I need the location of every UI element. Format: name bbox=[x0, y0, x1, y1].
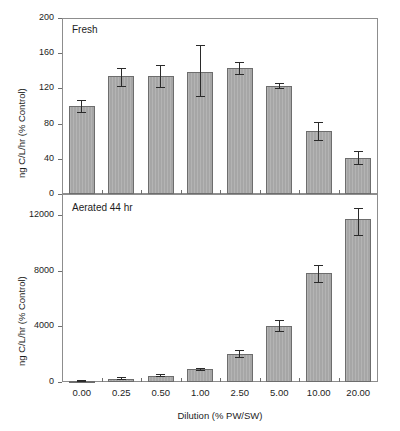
error-bar-cap-upper bbox=[275, 83, 284, 84]
error-bar bbox=[313, 265, 325, 283]
error-bar bbox=[234, 350, 246, 357]
x-tick-mark bbox=[339, 378, 340, 382]
x-tick-label: 10.00 bbox=[299, 388, 339, 398]
error-bar-cap-upper bbox=[354, 151, 363, 152]
bar bbox=[266, 326, 292, 382]
error-bar-cap-upper bbox=[314, 122, 323, 123]
error-bar-cap-lower bbox=[354, 164, 363, 165]
error-bar bbox=[273, 320, 285, 332]
x-axis-label: Dilution (% PW/SW) bbox=[62, 410, 378, 421]
error-bar-cap-upper bbox=[156, 374, 165, 375]
y-tick-mark bbox=[58, 382, 62, 383]
error-bar bbox=[313, 122, 325, 141]
error-bar-cap-lower bbox=[117, 86, 126, 87]
error-bar-cap-lower bbox=[314, 140, 323, 141]
error-bar-cap-lower bbox=[156, 87, 165, 88]
panel-label-aerated: Aerated 44 hr bbox=[72, 202, 133, 213]
error-bar-cap-lower bbox=[156, 376, 165, 377]
x-tick-label: 20.00 bbox=[338, 388, 378, 398]
error-bar bbox=[76, 100, 88, 113]
error-bar-cap-lower bbox=[117, 379, 126, 380]
error-bar bbox=[115, 68, 127, 86]
error-bar-cap-lower bbox=[314, 282, 323, 283]
error-bar-cap-upper bbox=[314, 265, 323, 266]
error-bar-cap-lower bbox=[235, 74, 244, 75]
error-bar bbox=[352, 151, 364, 165]
error-bar-cap-upper bbox=[196, 45, 205, 46]
chart-panel-fresh: Fresh ng C/L/hr (% Control) 040801201602… bbox=[0, 0, 400, 202]
y-tick-mark bbox=[58, 159, 62, 160]
error-bar-cap-upper bbox=[117, 68, 126, 69]
error-bar bbox=[115, 377, 127, 379]
y-tick-mark bbox=[58, 271, 62, 272]
y-tick-label: 0 bbox=[18, 377, 54, 386]
error-bar-cap-lower bbox=[275, 88, 284, 89]
y-tick-label: 200 bbox=[18, 13, 54, 22]
y-axis-label-fresh: ng C/L/hr (% Control) bbox=[16, 88, 27, 178]
error-bar-cap-upper bbox=[354, 208, 363, 209]
error-bar-cap-lower bbox=[196, 96, 205, 97]
error-bar-cap-lower bbox=[275, 331, 284, 332]
x-tick-label: 1.00 bbox=[180, 388, 220, 398]
bar bbox=[227, 68, 253, 194]
error-bar-cap-lower bbox=[196, 370, 205, 371]
y-tick-mark bbox=[58, 124, 62, 125]
error-bar bbox=[273, 83, 285, 89]
error-bar bbox=[76, 380, 88, 381]
y-tick-mark bbox=[58, 53, 62, 54]
y-tick-label: 80 bbox=[18, 119, 54, 128]
bar bbox=[69, 106, 95, 194]
y-tick-mark bbox=[58, 215, 62, 216]
x-tick-mark bbox=[220, 378, 221, 382]
error-bar-cap-lower bbox=[354, 235, 363, 236]
figure-container: Fresh ng C/L/hr (% Control) 040801201602… bbox=[0, 0, 400, 431]
error-bar-cap-upper bbox=[275, 320, 284, 321]
error-bar bbox=[155, 65, 167, 89]
error-bar-stem bbox=[358, 208, 359, 237]
y-tick-label: 4000 bbox=[18, 321, 54, 330]
error-bar bbox=[352, 208, 364, 237]
error-bar-cap-upper bbox=[235, 350, 244, 351]
error-bar bbox=[194, 368, 206, 370]
y-tick-label: 160 bbox=[18, 48, 54, 57]
error-bar-stem bbox=[160, 65, 161, 89]
x-tick-mark bbox=[102, 378, 103, 382]
error-bar-stem bbox=[121, 68, 122, 86]
x-tick-label: 0.00 bbox=[62, 388, 102, 398]
x-tick-mark bbox=[299, 378, 300, 382]
x-tick-mark bbox=[141, 378, 142, 382]
bar bbox=[187, 369, 213, 382]
bar bbox=[266, 86, 292, 194]
x-tick-label: 5.00 bbox=[259, 388, 299, 398]
error-bar-cap-lower bbox=[77, 112, 86, 113]
y-tick-label: 120 bbox=[18, 83, 54, 92]
y-tick-label: 40 bbox=[18, 154, 54, 163]
error-bar-cap-lower bbox=[77, 381, 86, 382]
bar bbox=[148, 76, 174, 194]
x-tick-mark bbox=[260, 378, 261, 382]
bar bbox=[306, 273, 332, 382]
error-bar-cap-upper bbox=[235, 62, 244, 63]
y-tick-mark bbox=[58, 18, 62, 19]
error-bar-stem bbox=[358, 151, 359, 165]
error-bar-stem bbox=[318, 122, 319, 141]
chart-panel-aerated: Aerated 44 hr ng C/L/hr (% Control) 0400… bbox=[0, 194, 400, 431]
error-bar-cap-upper bbox=[77, 100, 86, 101]
y-tick-label: 8000 bbox=[18, 266, 54, 275]
error-bar-stem bbox=[318, 265, 319, 283]
x-tick-label: 2.50 bbox=[220, 388, 260, 398]
x-tick-mark bbox=[181, 378, 182, 382]
x-tick-label: 0.25 bbox=[101, 388, 141, 398]
y-tick-mark bbox=[58, 88, 62, 89]
bar bbox=[227, 354, 253, 382]
error-bar bbox=[194, 45, 206, 97]
y-tick-label: 12000 bbox=[18, 210, 54, 219]
y-tick-mark bbox=[58, 326, 62, 327]
error-bar-cap-upper bbox=[156, 65, 165, 66]
error-bar-stem bbox=[200, 45, 201, 97]
bar bbox=[345, 219, 371, 382]
error-bar-cap-lower bbox=[235, 357, 244, 358]
error-bar bbox=[234, 62, 246, 75]
bar bbox=[108, 76, 134, 194]
x-tick-label: 0.50 bbox=[141, 388, 181, 398]
